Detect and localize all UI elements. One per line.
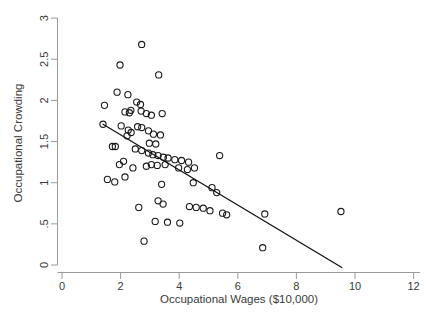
data-point [219, 210, 225, 216]
data-point [130, 165, 136, 171]
y-axis-tick-group: 0.511.522.53 [38, 15, 58, 268]
y-axis-tick-label: 2.5 [38, 52, 50, 67]
chart-canvas: 0.511.522.53 024681012 Occupational Wage… [0, 0, 442, 316]
y-axis-tick-label: 3 [38, 15, 50, 21]
data-point [338, 208, 344, 214]
data-point [146, 140, 152, 146]
data-point [177, 220, 183, 226]
data-point [178, 157, 184, 163]
y-axis-tick-label: .5 [38, 219, 50, 228]
data-point [117, 62, 123, 68]
x-axis-tick-group: 024681012 [59, 273, 420, 293]
data-point [104, 176, 110, 182]
data-point [160, 201, 166, 207]
y-axis-tick-label: 2 [38, 97, 50, 103]
data-point [120, 158, 126, 164]
y-axis-title: Occupational Crowding [12, 84, 24, 203]
data-point [125, 92, 131, 98]
data-point [118, 123, 124, 129]
x-axis-title: Occupational Wages ($10,000) [160, 293, 318, 305]
y-axis-tick-label: 0 [38, 262, 50, 268]
regression-fit-line [103, 124, 342, 267]
data-point [193, 204, 199, 210]
data-point [132, 146, 138, 152]
data-point [184, 166, 190, 172]
data-point [156, 72, 162, 78]
y-axis-tick-label: 1 [38, 180, 50, 186]
data-point [207, 208, 213, 214]
data-point [157, 132, 163, 138]
data-point [101, 102, 107, 108]
data-point [141, 238, 147, 244]
data-point [112, 179, 118, 185]
data-point [172, 157, 178, 163]
data-point [136, 204, 142, 210]
data-point [164, 219, 170, 225]
data-point [114, 89, 120, 95]
data-point [139, 124, 145, 130]
data-point [190, 180, 196, 186]
data-point [159, 110, 165, 116]
data-point [200, 205, 206, 211]
data-point [191, 165, 197, 171]
data-point-group [100, 41, 344, 250]
data-point [217, 152, 223, 158]
data-point [153, 141, 159, 147]
x-axis-tick-label: 0 [59, 280, 65, 292]
x-axis-tick-label: 6 [235, 280, 241, 292]
data-point [122, 174, 128, 180]
x-axis-tick-label: 10 [349, 280, 361, 292]
x-axis-tick-label: 8 [293, 280, 299, 292]
data-point [116, 161, 122, 167]
x-axis-tick-label: 4 [176, 280, 182, 292]
scatter-plot-figure: 0.511.522.53 024681012 Occupational Wage… [0, 0, 442, 316]
data-point [139, 41, 145, 47]
data-point [262, 211, 268, 217]
data-point [186, 203, 192, 209]
x-axis-tick-label: 2 [118, 280, 124, 292]
y-axis-tick-label: 1.5 [38, 134, 50, 149]
data-point [260, 245, 266, 251]
data-point [185, 159, 191, 165]
data-point [154, 162, 160, 168]
data-point [152, 218, 158, 224]
x-axis-tick-label: 12 [407, 280, 419, 292]
data-point [150, 131, 156, 137]
data-point [224, 212, 230, 218]
data-point [159, 181, 165, 187]
